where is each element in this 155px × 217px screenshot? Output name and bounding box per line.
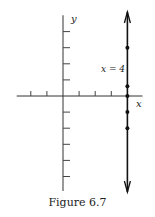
- tick-marks: [31, 32, 112, 177]
- point: [125, 84, 129, 88]
- point: [125, 126, 129, 130]
- y-axis-label: y: [70, 13, 77, 24]
- x-axis-label: x: [136, 98, 142, 109]
- point: [125, 110, 129, 114]
- line-label: x = 4: [101, 64, 125, 74]
- point: [125, 94, 129, 98]
- graph: x y x = 4: [0, 0, 155, 217]
- point: [125, 46, 129, 50]
- figure-caption: Figure 6.7: [0, 196, 155, 209]
